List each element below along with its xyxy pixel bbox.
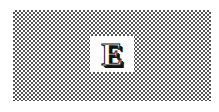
logo-box: E: [90, 36, 134, 72]
letter-e-logo-icon: E: [101, 38, 122, 70]
